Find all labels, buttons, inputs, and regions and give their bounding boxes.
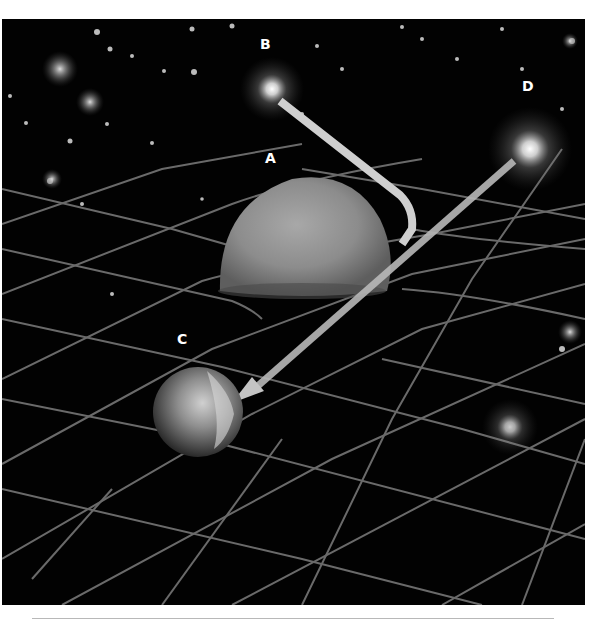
star-d	[488, 107, 572, 191]
planet-c	[153, 367, 243, 457]
label-d: D	[522, 78, 534, 94]
label-c: C	[177, 331, 187, 347]
star-lower-right	[482, 399, 538, 455]
label-b: B	[260, 36, 271, 52]
spacetime-diagram: A B C D	[2, 19, 585, 605]
divider-line	[32, 618, 554, 619]
label-a: A	[265, 150, 276, 166]
massive-body-a	[218, 177, 391, 299]
